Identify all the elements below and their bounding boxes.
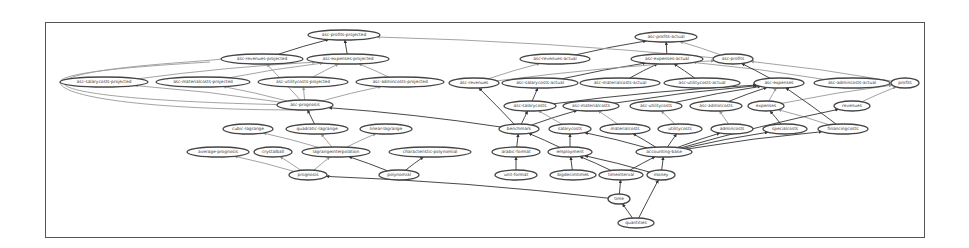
node-label: asc-expenses-actual (645, 56, 689, 61)
node-money[interactable]: money (647, 170, 675, 180)
node-bigdecimtimes[interactable]: bigdecimtimes (550, 170, 596, 180)
node-label: asc-revenues (460, 80, 489, 85)
node-label: utilitycosts (668, 126, 692, 131)
edge-quantities-to-money (639, 180, 659, 218)
edge-accounting-base-to-utilitycosts (668, 134, 677, 147)
node-label: asc-profits-projected (322, 32, 367, 37)
node-accounting-base[interactable]: accounting-base (636, 147, 692, 157)
node-asc-revenues[interactable]: asc-revenues (449, 78, 499, 88)
node-financingcosts[interactable]: financingcosts (818, 124, 868, 134)
node-label: asc-admincosts-projected (372, 79, 428, 84)
node-asc-profits[interactable]: asc-profits (713, 54, 753, 64)
edge-quadratic-lagrange-to-asc-prognosis (308, 110, 315, 124)
edge-prognosis-to-average-prognosis (235, 156, 295, 171)
node-time[interactable]: time (608, 194, 630, 204)
node-asc-salarycosts[interactable]: asc-salarycosts (504, 101, 556, 111)
node-label: expenses (756, 103, 777, 108)
node-label: asc-utilitycosts (640, 103, 673, 108)
node-benchmark[interactable]: benchmark (499, 124, 539, 134)
node-utilitycosts[interactable]: utilitycosts (658, 124, 702, 134)
node-cubic-lagrange[interactable]: cubic-lagrange (223, 124, 273, 134)
node-materialcosts[interactable]: materialcosts (600, 124, 650, 134)
node-asc-expenses[interactable]: asc-expenses (754, 78, 804, 88)
edge-asc-prognosis-to-asc-utilitycosts-projected (303, 87, 304, 100)
node-asc-expenses-actual[interactable]: asc-expenses-actual (631, 54, 703, 64)
node-asc-admincosts-actual[interactable]: asc-admincosts-actual (814, 78, 890, 88)
edge-lagrangeinterpolation-to-cubic-lagrange (263, 133, 319, 148)
node-asc-admincosts-projected[interactable]: asc-admincosts-projected (356, 77, 444, 87)
node-unit-format[interactable]: unit-format (495, 170, 537, 180)
node-quantities[interactable]: quantities (618, 218, 654, 228)
node-label: crystalball (262, 149, 284, 154)
node-asc-utilitycosts[interactable]: asc-utilitycosts (630, 101, 682, 111)
node-label: financingcosts (828, 126, 860, 131)
node-quadratic-lagrange[interactable]: quadratic-lagrange (286, 124, 348, 134)
edge-asc-profits-to-asc-profits-actual (680, 42, 721, 56)
edge-bigdecimtimes-to-employment (571, 157, 573, 170)
node-label: bigdecimtimes (557, 172, 589, 177)
edge-timeinterval-to-employment (580, 157, 611, 171)
edge-prognosis-to-lagrangeinterpolation (314, 157, 330, 170)
node-employment[interactable]: employment (548, 147, 592, 157)
node-average-prognosis[interactable]: average-prognosis (187, 147, 249, 157)
edge-materialcosts-to-asc-materialcosts (598, 111, 618, 124)
dependency-graph: asc-profits-projectedasc-revenues-projec… (0, 0, 969, 248)
nodes-layer: asc-profits-projectedasc-revenues-projec… (60, 30, 919, 228)
node-polynomial[interactable]: polynomial (379, 170, 419, 180)
node-crystalball[interactable]: crystalball (254, 147, 292, 157)
node-asc-salarycosts-actual[interactable]: asc-salarycosts-actual (502, 78, 578, 88)
node-asc-materialcosts-projected[interactable]: asc-materialcosts-projected (156, 77, 250, 87)
node-label: lagrangeinterpolation (313, 149, 360, 154)
edge-employment-to-benchmark (529, 133, 560, 147)
node-specialcosts[interactable]: specialcosts (763, 124, 807, 134)
node-asc-admincosts[interactable]: asc-admincosts (690, 101, 742, 111)
node-expenses[interactable]: expenses (748, 101, 784, 111)
edge-asc-expenses-actual-to-asc-profits-actual (666, 42, 667, 54)
node-admincosts[interactable]: admincosts (711, 124, 753, 134)
node-label: accounting-base (646, 149, 682, 154)
node-asc-revenues-actual[interactable]: asc-revenues-actual (520, 54, 590, 64)
edge-asc-admincosts-projected-to-asc-expenses-projected (359, 64, 389, 77)
edge-asc-utilitycosts-actual-to-asc-expenses-actual (674, 64, 695, 78)
node-label: prognosis (298, 172, 320, 177)
node-asc-revenues-projected[interactable]: asc-revenues-projected (221, 54, 303, 64)
node-asc-materialcosts[interactable]: asc-materialcosts (563, 101, 619, 111)
node-prognosis[interactable]: prognosis (289, 170, 327, 180)
node-characteristic-polynomial[interactable]: characteristic-polynomial (389, 147, 471, 157)
edge-money-to-accounting-base (662, 157, 664, 170)
node-arabic-format[interactable]: arabic-format (492, 147, 540, 157)
edge-salarycosts-to-asc-salarycosts (538, 111, 562, 125)
node-salarycosts[interactable]: salarycosts (549, 124, 591, 134)
node-asc-utilitycosts-projected[interactable]: asc-utilitycosts-projected (258, 77, 348, 87)
node-linear-lagrange[interactable]: linear-lagrange (360, 124, 412, 134)
node-timeinterval[interactable]: timeinterval (599, 170, 643, 180)
node-label: profits (898, 80, 912, 85)
node-asc-utilitycosts-actual[interactable]: asc-utilitycosts-actual (664, 78, 740, 88)
node-revenues[interactable]: revenues (834, 101, 870, 111)
node-label: benchmark (507, 126, 532, 131)
node-label: arabic-format (501, 149, 531, 154)
edge-arabic-format-to-benchmark (517, 134, 519, 147)
edge-polynomial-to-characteristic-polynomial (405, 157, 423, 170)
node-label: asc-salarycosts-actual (516, 80, 564, 85)
node-label: polynomial (387, 172, 411, 177)
node-asc-profits-projected[interactable]: asc-profits-projected (308, 30, 380, 40)
node-asc-salarycosts-projected[interactable]: asc-salarycosts-projected (60, 77, 148, 87)
node-label: quantities (625, 220, 647, 225)
edge-asc-admincosts-actual-to-asc-expenses-actual (693, 62, 825, 79)
node-label: asc-profits-actual (647, 34, 684, 39)
node-profits[interactable]: profits (891, 78, 919, 88)
node-asc-expenses-projected[interactable]: asc-expenses-projected (307, 54, 389, 64)
edge-accounting-base-to-specialcosts (683, 132, 768, 148)
node-asc-materialcosts-actual[interactable]: asc-materialcosts-actual (580, 78, 660, 88)
node-lagrangeinterpolation[interactable]: lagrangeinterpolation (302, 147, 370, 157)
node-asc-prognosis[interactable]: asc-prognosis (277, 100, 333, 110)
node-label: revenues (842, 103, 863, 108)
edge-benchmark-to-asc-prognosis (329, 108, 501, 127)
edge-polynomial-to-lagrangeinterpolation (349, 157, 388, 171)
node-label: materialcosts (610, 126, 640, 131)
node-asc-profits-actual[interactable]: asc-profits-actual (635, 32, 697, 42)
edge-revenues-to-profits (862, 87, 896, 102)
node-label: quadratic-lagrange (296, 126, 337, 131)
edge-asc-materialcosts-projected-to-asc-expenses-projected (229, 63, 323, 78)
